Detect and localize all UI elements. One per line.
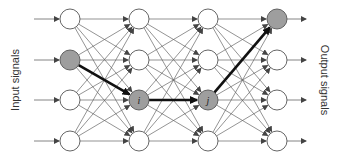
neuron-node	[267, 90, 287, 110]
highlighted-path	[79, 27, 270, 100]
neuron-node	[267, 131, 287, 151]
edge	[76, 27, 131, 92]
neuron-node	[60, 9, 80, 29]
edge	[76, 68, 131, 133]
edge	[144, 29, 203, 133]
edge	[217, 105, 268, 135]
node-label-i: i	[138, 95, 141, 106]
input-signals-label: Input signals	[9, 49, 21, 111]
neuron-node	[198, 50, 218, 70]
neuron-node	[198, 9, 218, 29]
neural-network-diagram: ij Input signals Output signals	[0, 0, 344, 163]
edge	[148, 25, 199, 55]
neuron-node	[60, 90, 80, 110]
neuron-node	[129, 131, 149, 151]
edge	[79, 25, 130, 55]
output-signals-label: Output signals	[319, 45, 331, 116]
edge	[213, 29, 272, 133]
edge	[79, 105, 130, 135]
edge	[145, 27, 200, 92]
neuron-node	[60, 50, 80, 70]
edge	[148, 105, 199, 135]
neuron-node	[267, 50, 287, 70]
neuron-node	[129, 50, 149, 70]
edge	[214, 68, 269, 133]
neuron-node	[267, 9, 287, 29]
neuron-node	[60, 131, 80, 151]
neuron-node	[129, 9, 149, 29]
neuron-node	[198, 131, 218, 151]
